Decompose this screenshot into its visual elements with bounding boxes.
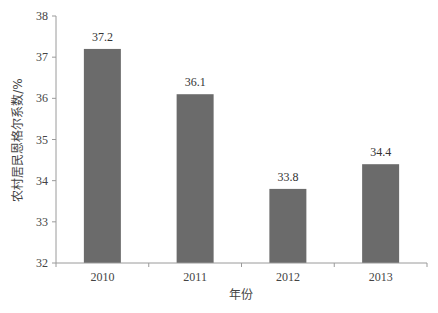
x-axis-title: 年份	[229, 288, 253, 302]
data-label: 34.4	[370, 145, 391, 159]
x-tick-label: 2011	[183, 270, 207, 284]
x-tick-label: 2012	[276, 270, 300, 284]
bars: 37.236.133.834.4	[84, 30, 399, 263]
bar-2011	[177, 94, 214, 263]
y-tick-label: 36	[36, 91, 48, 105]
y-axis-ticks: 32333435363738	[36, 9, 56, 270]
y-tick-label: 32	[36, 256, 48, 270]
bar-2013	[362, 164, 399, 263]
data-label: 36.1	[185, 75, 206, 89]
data-label: 33.8	[277, 170, 298, 184]
x-axis-ticks: 2010201120122013	[56, 263, 427, 284]
y-tick-label: 38	[36, 9, 48, 23]
bar-2010	[84, 49, 121, 263]
x-tick-label: 2013	[369, 270, 393, 284]
bar-chart: 32333435363738 37.236.133.834.4 20102011…	[0, 0, 438, 313]
x-tick-label: 2010	[90, 270, 114, 284]
y-axis-title: 农村居民恩格尔系数/%	[10, 78, 25, 201]
y-tick-label: 34	[36, 174, 48, 188]
data-label: 37.2	[92, 30, 113, 44]
y-tick-label: 35	[36, 133, 48, 147]
y-tick-label: 33	[36, 215, 48, 229]
y-tick-label: 37	[36, 50, 48, 64]
bar-2012	[269, 189, 306, 263]
